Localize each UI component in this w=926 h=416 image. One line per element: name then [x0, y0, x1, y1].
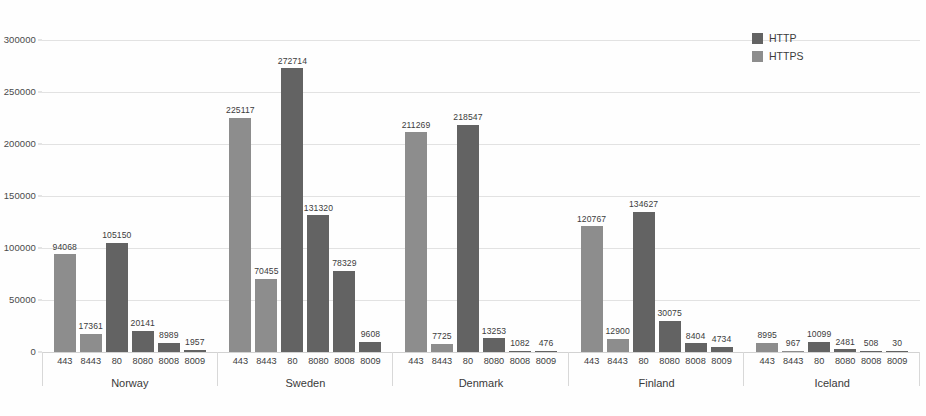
x-axis-group-sweden: 443844380808080088009Sweden	[218, 352, 394, 416]
bar-slot: 13253	[483, 40, 505, 352]
y-axis-tick-label: 100000	[4, 243, 36, 253]
bar-iceland-443[interactable]	[756, 343, 778, 352]
bar-sweden-80[interactable]	[281, 68, 303, 352]
y-axis: 050000100000150000200000250000300000	[0, 0, 42, 416]
bar-norway-8443[interactable]	[80, 334, 102, 352]
bar-slot: 7725	[431, 40, 453, 352]
x-axis-group-iceland: 443844380808080088009Iceland	[744, 352, 920, 416]
bar-value-label: 120767	[577, 215, 606, 224]
country-label-iceland: Iceland	[744, 378, 920, 389]
bar-value-label: 12900	[605, 327, 629, 336]
bar-slot: 1082	[509, 40, 531, 352]
bar-finland-8443[interactable]	[607, 339, 629, 352]
bar-sweden-8080[interactable]	[307, 215, 329, 352]
bar-sweden-8009[interactable]	[359, 342, 381, 352]
port-tick-label-8080: 8080	[659, 357, 681, 366]
bar-value-label: 94068	[53, 243, 77, 252]
bar-slot: 12900	[607, 40, 629, 352]
bar-value-label: 134627	[629, 200, 658, 209]
bar-slot: 8995	[756, 40, 778, 352]
port-tick-label-80: 80	[106, 357, 128, 366]
bar-norway-443[interactable]	[54, 254, 76, 352]
y-axis-tick-label: 0	[31, 347, 36, 357]
bar-sweden-8008[interactable]	[333, 271, 355, 352]
bar-value-label: 78329	[332, 259, 356, 268]
port-tick-label-443: 443	[581, 357, 603, 366]
bar-finland-8080[interactable]	[659, 321, 681, 352]
port-tick-label-443: 443	[756, 357, 778, 366]
bar-value-label: 10099	[807, 330, 831, 339]
bar-value-label: 105150	[102, 231, 131, 240]
bar-sweden-8443[interactable]	[255, 279, 277, 352]
port-tick-label-443: 443	[54, 357, 76, 366]
bar-groups: 9406817361105150201418989195722511770455…	[42, 40, 920, 352]
port-tick-labels: 443844380808080088009	[744, 357, 920, 366]
bar-norway-80[interactable]	[106, 243, 128, 352]
bar-slot: 4734	[711, 40, 733, 352]
y-axis-tick-label: 150000	[4, 191, 36, 201]
bar-norway-8080[interactable]	[132, 331, 154, 352]
bar-finland-8008[interactable]	[685, 343, 707, 352]
bar-value-label: 476	[539, 339, 554, 348]
legend: HTTPHTTPS	[752, 33, 803, 62]
bar-slot: 8989	[158, 40, 180, 352]
bar-group-sweden: 22511770455272714131320783299608	[218, 40, 394, 352]
port-tick-labels: 443844380808080088009	[393, 357, 569, 366]
port-tick-labels: 443844380808080088009	[218, 357, 394, 366]
port-tick-label-8080: 8080	[132, 357, 154, 366]
country-label-sweden: Sweden	[218, 378, 394, 389]
bar-value-label: 225117	[226, 106, 255, 115]
bar-sweden-443[interactable]	[229, 118, 251, 352]
port-tick-label-8008: 8008	[685, 357, 707, 366]
bar-slot: 30	[886, 40, 908, 352]
legend-swatch-icon	[752, 51, 763, 62]
bar-slot: 94068	[54, 40, 76, 352]
bar-value-label: 218547	[453, 113, 482, 122]
bar-denmark-80[interactable]	[457, 125, 479, 352]
x-axis: 443844380808080088009Norway4438443808080…	[42, 352, 920, 416]
bar-norway-8008[interactable]	[158, 343, 180, 352]
bar-denmark-8080[interactable]	[483, 338, 505, 352]
bar-slot: 120767	[581, 40, 603, 352]
x-axis-groups: 443844380808080088009Norway4438443808080…	[42, 352, 920, 416]
bar-finland-80[interactable]	[633, 212, 655, 352]
bar-slot: 134627	[633, 40, 655, 352]
bar-group-norway: 94068173611051502014189891957	[42, 40, 218, 352]
port-tick-label-8009: 8009	[535, 357, 557, 366]
port-tick-label-8443: 8443	[607, 357, 629, 366]
bar-slot: 211269	[405, 40, 427, 352]
bar-slot: 225117	[229, 40, 251, 352]
bar-value-label: 8989	[159, 331, 179, 340]
bar-value-label: 20141	[131, 319, 155, 328]
bar-iceland-80[interactable]	[808, 342, 830, 353]
port-tick-label-443: 443	[405, 357, 427, 366]
country-label-finland: Finland	[569, 378, 745, 389]
legend-item-http[interactable]: HTTP	[752, 33, 803, 44]
bar-slot: 8404	[685, 40, 707, 352]
bar-value-label: 8404	[686, 332, 706, 341]
legend-item-https[interactable]: HTTPS	[752, 51, 803, 62]
port-tick-label-8009: 8009	[184, 357, 206, 366]
bar-value-label: 272714	[278, 57, 307, 66]
y-axis-tick-label: 300000	[4, 35, 36, 45]
bar-slot: 30075	[659, 40, 681, 352]
bar-slot: 508	[860, 40, 882, 352]
country-label-norway: Norway	[42, 378, 218, 389]
y-axis-tick-label: 50000	[9, 295, 36, 305]
legend-label: HTTPS	[769, 51, 803, 62]
bar-value-label: 2481	[835, 338, 855, 347]
port-tick-label-8008: 8008	[860, 357, 882, 366]
bar-denmark-443[interactable]	[405, 132, 427, 352]
port-tick-label-8008: 8008	[333, 357, 355, 366]
bar-slot: 105150	[106, 40, 128, 352]
port-tick-label-80: 80	[457, 357, 479, 366]
bar-slot: 78329	[333, 40, 355, 352]
port-tick-label-8443: 8443	[255, 357, 277, 366]
bar-denmark-8443[interactable]	[431, 344, 453, 352]
x-axis-group-denmark: 443844380808080088009Denmark	[393, 352, 569, 416]
bar-value-label: 13253	[482, 327, 506, 336]
bar-value-label: 4734	[712, 335, 732, 344]
bar-value-label: 17361	[79, 322, 103, 331]
bar-finland-443[interactable]	[581, 226, 603, 352]
bar-value-label: 8995	[757, 331, 777, 340]
